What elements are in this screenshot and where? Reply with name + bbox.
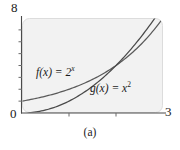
y-axis-max-label: 8 [11,0,18,16]
x-axis-ticks [69,113,116,117]
origin-label: 0 [10,106,17,122]
annotation-g-base: g(x) = x [90,82,127,94]
figure-container: 8 0 3 f(x) = 2x g(x) [0,0,180,150]
annotation-g-exponent: 2 [127,80,131,89]
annotation-f-exponent: x [71,64,74,73]
annotation-label-f: f(x) = 2x [36,64,75,78]
annotation-f-base: f(x) = 2 [36,66,71,78]
annotation-label-g: g(x) = x2 [90,80,131,94]
figure-caption: (a) [0,126,180,138]
x-axis-max-label: 3 [165,104,172,120]
